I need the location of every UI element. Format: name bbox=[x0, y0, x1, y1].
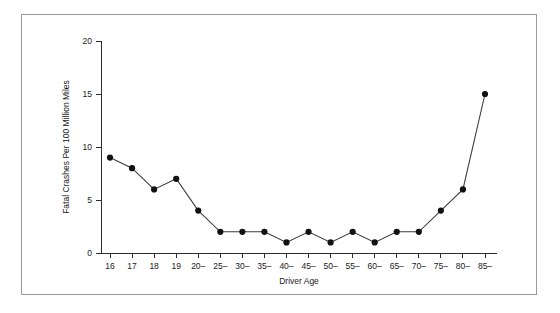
series-data-point bbox=[460, 186, 466, 192]
x-axis: 1617181920–25–30–35–40–45–50–55–60–65–70… bbox=[101, 253, 497, 286]
series-data-point bbox=[261, 229, 267, 235]
series-line bbox=[110, 94, 485, 242]
series-data-point bbox=[107, 155, 113, 161]
x-tick-label: 45– bbox=[301, 261, 315, 271]
series-data-point bbox=[327, 239, 333, 245]
series-data-point bbox=[305, 229, 311, 235]
y-tick-label: 0 bbox=[87, 248, 92, 258]
x-tick-label: 16 bbox=[105, 261, 115, 271]
series-data-point bbox=[438, 208, 444, 214]
series-data-point bbox=[372, 239, 378, 245]
x-tick-label: 60– bbox=[368, 261, 382, 271]
line-chart: 05101520 Fatal Crashes Per 100 Million M… bbox=[0, 0, 560, 313]
y-tick-label: 10 bbox=[83, 142, 93, 152]
x-tick-label: 65– bbox=[390, 261, 404, 271]
series-data-point bbox=[416, 229, 422, 235]
x-tick-label: 25– bbox=[213, 261, 227, 271]
x-tick-label: 20– bbox=[191, 261, 205, 271]
y-axis-ticks bbox=[96, 41, 101, 253]
series-data-point bbox=[129, 165, 135, 171]
y-axis: 05101520 Fatal Crashes Per 100 Million M… bbox=[61, 36, 101, 258]
x-tick-label: 30– bbox=[235, 261, 249, 271]
x-tick-label: 85– bbox=[478, 261, 492, 271]
x-tick-label: 35– bbox=[257, 261, 271, 271]
series-data-point bbox=[217, 229, 223, 235]
x-tick-label: 70– bbox=[412, 261, 426, 271]
y-tick-label: 15 bbox=[83, 89, 93, 99]
series-data-point bbox=[482, 91, 488, 97]
x-axis-title: Driver Age bbox=[279, 276, 319, 286]
y-tick-label: 20 bbox=[83, 36, 93, 46]
x-tick-label: 75– bbox=[434, 261, 448, 271]
series-data-point bbox=[173, 176, 179, 182]
series-data-point bbox=[283, 239, 289, 245]
y-tick-label: 5 bbox=[87, 195, 92, 205]
y-axis-title: Fatal Crashes Per 100 Million Miles bbox=[61, 80, 71, 214]
series-data-point bbox=[394, 229, 400, 235]
x-tick-label: 19 bbox=[171, 261, 181, 271]
series-data-point bbox=[151, 186, 157, 192]
series-data-point bbox=[239, 229, 245, 235]
series-markers bbox=[107, 91, 488, 246]
data-series bbox=[107, 91, 488, 246]
x-tick-label: 18 bbox=[149, 261, 159, 271]
figure-container: 05101520 Fatal Crashes Per 100 Million M… bbox=[0, 0, 560, 313]
x-axis-ticks bbox=[110, 253, 485, 258]
series-data-point bbox=[195, 208, 201, 214]
x-tick-label: 17 bbox=[127, 261, 137, 271]
x-tick-label: 80– bbox=[456, 261, 470, 271]
x-tick-label: 40– bbox=[279, 261, 293, 271]
x-tick-label: 50– bbox=[323, 261, 337, 271]
series-data-point bbox=[350, 229, 356, 235]
x-tick-label: 55– bbox=[346, 261, 360, 271]
y-axis-tick-labels: 05101520 bbox=[83, 36, 93, 258]
x-axis-tick-labels: 1617181920–25–30–35–40–45–50–55–60–65–70… bbox=[105, 261, 492, 271]
